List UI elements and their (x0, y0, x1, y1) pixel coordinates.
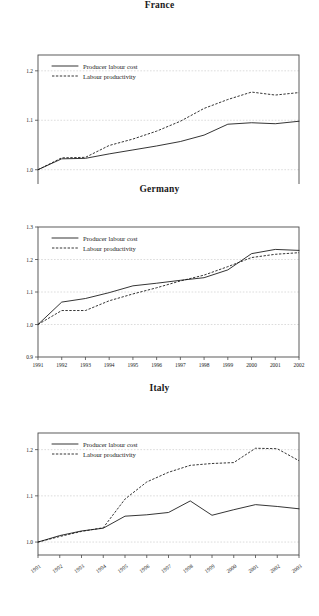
x-tick-label: 1997 (175, 362, 186, 368)
legend-label-producer-labour-cost: Producer labour cost (83, 441, 138, 448)
y-tick-label: 1.2 (26, 68, 33, 74)
legend-label-labour-productivity: Labour productivity (83, 245, 137, 252)
x-tick-label: 1995 (128, 362, 139, 368)
x-tick-label: 2000 (246, 362, 257, 368)
x-tick-label: 1995 (117, 563, 130, 574)
chart-area-italy: 1.01.11.21991199219931994199519961997199… (0, 393, 319, 577)
x-tick-label: 1998 (199, 362, 210, 368)
y-tick-label: 1.0 (26, 539, 33, 545)
x-tick-label: 2000 (225, 563, 238, 574)
y-tick-label: 0.9 (26, 354, 33, 360)
x-tick-label: 2003 (291, 563, 304, 574)
legend-label-producer-labour-cost: Producer labour cost (83, 63, 138, 70)
x-tick-label: 1996 (138, 563, 151, 574)
x-tick-label: 1991 (33, 362, 44, 368)
chart-svg-italy: 1.01.11.21991199219931994199519961997199… (0, 393, 319, 577)
chart-title-italy: Italy (0, 383, 319, 393)
y-tick-label: 1.3 (26, 224, 33, 230)
chart-panel-italy: Italy 1.01.11.21991199219931994199519961… (0, 383, 319, 577)
chart-panel-france: France 1.01.11.2199119921993199419951996… (0, 0, 319, 184)
series-line-labour-productivity (38, 448, 299, 542)
legend-label-labour-productivity: Labour productivity (83, 73, 137, 80)
plot-frame (38, 433, 299, 555)
x-tick-label: 2001 (270, 362, 281, 368)
y-tick-label: 1.1 (26, 493, 33, 499)
y-tick-label: 1.1 (26, 289, 33, 295)
x-tick-label: 1993 (73, 563, 86, 574)
plot-frame (38, 55, 299, 184)
x-tick-label: 2002 (294, 362, 305, 368)
chart-svg-germany: 0.91.01.11.21.31991199219931994199519961… (0, 194, 319, 383)
series-line-producer-labour-cost (38, 249, 299, 324)
x-tick-label: 1991 (30, 563, 43, 574)
legend-label-producer-labour-cost: Producer labour cost (83, 235, 138, 242)
chart-title-france: France (0, 0, 319, 10)
chart-area-germany: 0.91.01.11.21.31991199219931994199519961… (0, 194, 319, 383)
x-tick-label: 2001 (247, 563, 260, 574)
y-tick-label: 1.0 (26, 167, 33, 173)
x-tick-label: 1997 (160, 563, 173, 574)
x-tick-label: 1992 (56, 362, 67, 368)
y-tick-label: 1.0 (26, 322, 33, 328)
x-tick-label: 1994 (104, 362, 115, 368)
y-tick-label: 1.2 (26, 257, 33, 263)
x-tick-label: 1992 (51, 563, 64, 574)
y-tick-label: 1.1 (26, 117, 33, 123)
figure-page: France 1.01.11.2199119921993199419951996… (0, 0, 319, 616)
x-tick-label: 1993 (80, 362, 91, 368)
series-line-producer-labour-cost (38, 501, 299, 542)
x-tick-label: 1994 (95, 563, 108, 574)
x-tick-label: 1996 (151, 362, 162, 368)
x-tick-label: 2002 (269, 563, 282, 574)
series-line-labour-productivity (38, 253, 299, 325)
x-tick-label: 1999 (222, 362, 233, 368)
series-line-producer-labour-cost (38, 121, 299, 169)
chart-area-france: 1.01.11.21991199219931994199519961997199… (0, 10, 319, 184)
chart-panel-germany: Germany 0.91.01.11.21.319911992199319941… (0, 184, 319, 383)
chart-svg-france: 1.01.11.21991199219931994199519961997199… (0, 10, 319, 184)
x-tick-label: 1998 (182, 563, 195, 574)
legend-label-labour-productivity: Labour productivity (83, 451, 137, 458)
series-line-labour-productivity (38, 92, 299, 170)
chart-title-germany: Germany (0, 184, 319, 194)
y-tick-label: 1.2 (26, 447, 33, 453)
x-tick-label: 1999 (204, 563, 217, 574)
